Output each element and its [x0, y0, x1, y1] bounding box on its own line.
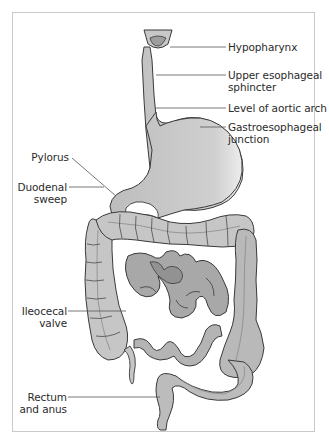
label-line: junction [228, 133, 322, 145]
label-line: Duodenal [18, 181, 68, 193]
label-line: Hypopharynx [228, 41, 297, 53]
label-line: Pylorus [31, 151, 69, 163]
label-line: sweep [18, 193, 68, 205]
hypopharynx-shape [144, 30, 172, 48]
label-line: Upper esophageal [228, 69, 322, 81]
appendix [124, 346, 135, 384]
label-line: Rectum [19, 391, 67, 403]
leader-lines-right [155, 47, 226, 127]
label-ileocecal-valve: Ileocecal valve [22, 305, 67, 329]
label-line: valve [22, 317, 67, 329]
label-rectum-and-anus: Rectum and anus [19, 391, 67, 415]
label-line: and anus [19, 403, 67, 415]
label-hypopharynx: Hypopharynx [228, 41, 297, 53]
label-line: Level of aortic arch [228, 102, 327, 114]
label-upper-esophageal-sphincter: Upper esophageal sphincter [228, 69, 322, 93]
label-duodenal-sweep: Duodenal sweep [18, 181, 68, 205]
gi-tract-diagram [0, 0, 329, 442]
label-line: sphincter [228, 81, 322, 93]
label-gastroesophageal-junction: Gastroesophageal junction [228, 121, 322, 145]
label-level-of-aortic-arch: Level of aortic arch [228, 102, 327, 114]
label-line: Ileocecal [22, 305, 67, 317]
label-pylorus: Pylorus [31, 151, 69, 163]
sigmoid-rectum [156, 360, 253, 430]
label-line: Gastroesophageal [228, 121, 322, 133]
small-intestine [125, 251, 228, 366]
